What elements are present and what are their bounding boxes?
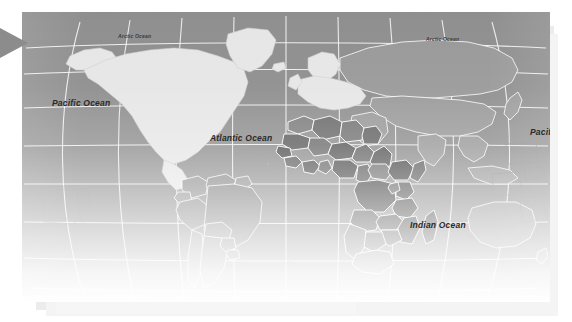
label-atlantic-ocean: Atlantic Ocean [210, 133, 272, 143]
world-map-figure: Arctic Ocean Arctic Ocean Pacific Ocean … [0, 0, 572, 322]
label-indian-ocean: Indian Ocean [410, 220, 466, 230]
label-arctic-ocean-west: Arctic Ocean [118, 33, 151, 39]
region-north-asia [340, 40, 518, 98]
world-map-svg[interactable] [22, 12, 550, 302]
plate-shadow-bottom [56, 300, 356, 314]
label-pacific-ocean-west: Pacific Ocean [52, 98, 110, 108]
label-arctic-ocean-east: Arctic Ocean [426, 36, 459, 42]
label-pacific-ocean-east: Pacific Ocean [530, 127, 550, 137]
triangle-right-icon[interactable] [0, 28, 28, 58]
map-plate[interactable]: Arctic Ocean Arctic Ocean Pacific Ocean … [22, 12, 550, 302]
